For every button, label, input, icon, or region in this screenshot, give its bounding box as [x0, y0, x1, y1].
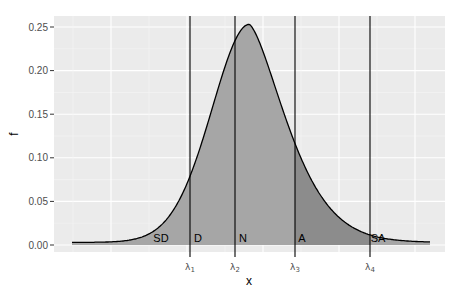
y-tick-label: 0.20 — [29, 65, 49, 76]
y-tick-label: 0.10 — [29, 152, 49, 163]
region-label-sd: SD — [153, 232, 168, 244]
y-tick-label: 0.25 — [29, 22, 49, 33]
y-axis-ticks: 0.000.050.100.150.200.25 — [29, 22, 54, 251]
y-axis-title: f — [7, 132, 21, 136]
threshold-label: λ2 — [230, 262, 240, 274]
region-label-n: N — [239, 232, 247, 244]
threshold-label: λ3 — [290, 262, 300, 274]
x-axis-title: x — [246, 274, 252, 288]
y-tick-label: 0.15 — [29, 109, 49, 120]
y-tick-label: 0.05 — [29, 196, 49, 207]
density-chart: λ1λ2λ3λ4 0.000.050.100.150.200.25 SDDNAS… — [0, 0, 462, 299]
threshold-label: λ4 — [365, 262, 375, 274]
region-label-d: D — [194, 232, 202, 244]
y-tick-label: 0.00 — [29, 240, 49, 251]
region-label-sa: SA — [371, 232, 386, 244]
region-label-a: A — [298, 232, 306, 244]
threshold-label: λ1 — [185, 262, 195, 274]
